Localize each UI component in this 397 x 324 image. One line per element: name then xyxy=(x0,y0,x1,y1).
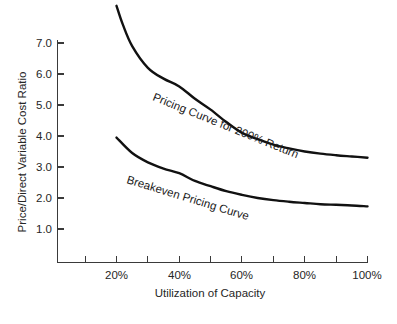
chart-container: 7.0 6.0 5.0 4.0 3.0 2.0 1.0 20% 40% 60% … xyxy=(0,0,397,324)
y-tick-label-1: 1.0 xyxy=(36,223,52,235)
x-tick-label-80: 80% xyxy=(293,269,316,281)
series-label-breakeven-pricing-curve: Breakeven Pricing Curve xyxy=(125,173,250,222)
chart-svg: 7.0 6.0 5.0 4.0 3.0 2.0 1.0 20% 40% 60% … xyxy=(0,0,397,324)
y-tick-label-5: 5.0 xyxy=(36,99,52,111)
x-tick-label-60: 60% xyxy=(230,269,253,281)
y-tick-label-3: 3.0 xyxy=(36,161,52,173)
y-axis-title: Price/Direct Variable Cost Ratio xyxy=(16,72,28,233)
x-tick-label-20: 20% xyxy=(105,269,128,281)
series-line-breakeven-pricing-curve xyxy=(117,138,368,207)
x-tick-label-100: 100% xyxy=(352,269,381,281)
x-axis-title: Utilization of Capacity xyxy=(155,287,266,299)
y-tick-label-6: 6.0 xyxy=(36,68,52,80)
y-tick-label-2: 2.0 xyxy=(36,192,52,204)
y-tick-label-7: 7.0 xyxy=(36,37,52,49)
x-axis-ticks xyxy=(86,256,368,263)
series-label-pricing-curve-200-return: Pricing Curve for 200% Return xyxy=(151,91,300,161)
x-tick-label-40: 40% xyxy=(168,269,191,281)
y-axis-ticks xyxy=(58,43,65,229)
y-tick-label-4: 4.0 xyxy=(36,130,52,142)
